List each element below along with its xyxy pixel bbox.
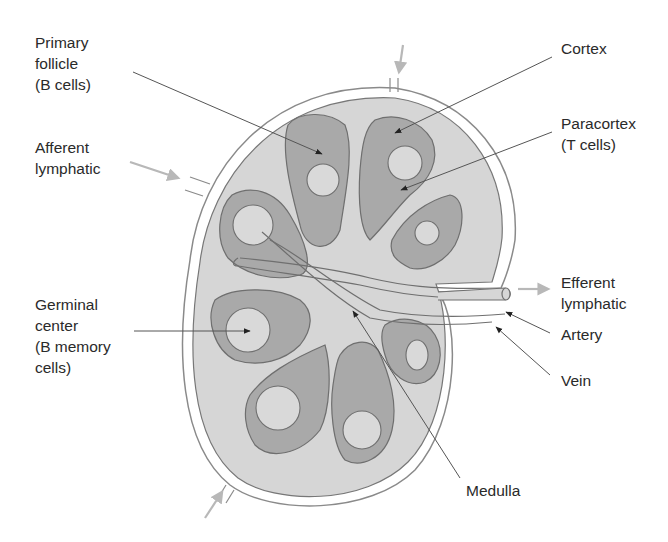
label-afferent-lymphatic: Afferent lymphatic	[35, 137, 100, 179]
label-medulla: Medulla	[466, 480, 520, 501]
label-primary-follicle: Primary follicle (B cells)	[35, 32, 91, 95]
label-efferent-lymphatic: Efferent lymphatic	[561, 272, 626, 314]
label-cortex: Cortex	[561, 38, 607, 59]
label-paracortex: Paracortex (T cells)	[561, 113, 636, 155]
vein-pointer	[496, 327, 550, 375]
primary-follicle	[307, 164, 339, 196]
afferent-flow-arrow-left	[130, 162, 178, 178]
germinal-center	[226, 308, 270, 352]
artery-pointer	[506, 312, 550, 333]
afferent-flow-arrow-top	[399, 45, 403, 72]
afferent-flow-arrow-bottom	[205, 492, 222, 518]
lymph-node-diagram	[0, 0, 668, 542]
label-artery: Artery	[561, 324, 602, 345]
label-vein: Vein	[561, 370, 591, 391]
label-germinal-center: Germinal center (B memory cells)	[35, 294, 111, 378]
